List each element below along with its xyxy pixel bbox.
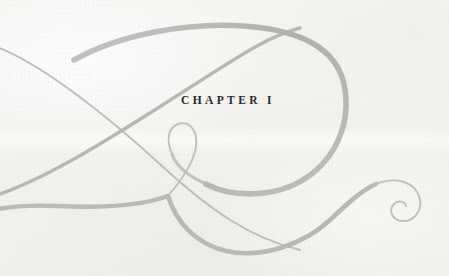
calligraphic-flourish-ornament bbox=[0, 0, 449, 276]
spiral-curl-terminal-stroke bbox=[376, 180, 420, 221]
upper-left-hairline-stroke bbox=[0, 46, 300, 250]
chapter-heading-numeral: I bbox=[267, 94, 271, 106]
chapter-heading: CHAPTERI bbox=[0, 92, 449, 108]
chapter-opening-page: CHAPTERI bbox=[0, 0, 449, 276]
main-loop-stroke bbox=[74, 25, 346, 194]
bottom-sweep-left-stroke bbox=[0, 196, 168, 210]
chapter-heading-word: CHAPTER bbox=[181, 94, 261, 106]
crossing-diagonal-stroke bbox=[0, 28, 300, 196]
